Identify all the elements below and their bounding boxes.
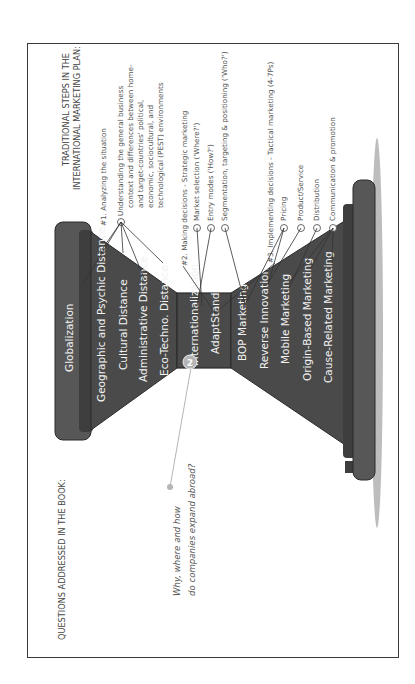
step1-line5: technological (PEST) environments (156, 82, 165, 208)
step3-item3: Distribution (312, 179, 321, 221)
steps-title-line2: INTERNATIONAL MARKETING PLAN: (72, 46, 82, 190)
label-internationalization: Internationalization (188, 264, 200, 366)
rotated-diagram: QUESTIONS ADDRESSED IN THE BOOK: TRADITI… (27, 43, 399, 658)
label-globalization: Globalization (63, 304, 75, 372)
step3-item4: Communication & promotion (328, 117, 337, 221)
questions-title: QUESTIONS ADDRESSED IN THE BOOK: (57, 479, 67, 640)
step1-line4: economic, sociocultural, and (146, 105, 155, 208)
label-adaptstand: AdaptStand (209, 293, 221, 354)
step3-title: #3. Implementing decisions - Tactical ma… (266, 62, 275, 263)
question-line1: Why, where and how (172, 505, 182, 596)
label-bop: BOP Marketing (236, 284, 248, 361)
step2-item1: Market selection ('Where?') (192, 123, 201, 221)
step1-title: #1. Analyzing the situation (99, 128, 108, 226)
question-line2: do companies expand abroad? (187, 463, 197, 596)
label-geographic: Geographic and Psychic Distance (95, 227, 107, 402)
label-origin-based: Origin-Based Marketing (301, 258, 313, 381)
label-ecotechno: Eco-Techno. Distance (158, 265, 170, 376)
lower-funnel (231, 213, 357, 453)
step1-line1: Understanding the general business (116, 85, 125, 216)
step3-markers (281, 225, 337, 232)
connector-dot (167, 484, 173, 490)
step1-line2: context and differences between home- (126, 64, 135, 208)
step2-title: #2. Making decisions - Strategic marketi… (180, 111, 189, 266)
step1-line3: and target-countries' political, (136, 100, 145, 208)
step3-item1: Pricing (279, 197, 288, 221)
steps-title-line1: TRADITIONAL STEPS IN THE (61, 53, 71, 167)
label-cause-related: Cause-Related Marketing (322, 251, 334, 383)
bottom-base (343, 180, 375, 480)
step3-item2: Product/Service (296, 164, 305, 221)
step2-item2: Entry modes ('How?') (206, 144, 215, 221)
step2-item3: Segmentation, targeting & positioning ('… (220, 51, 229, 221)
badge-2-label: 2 (187, 358, 193, 368)
label-cultural: Cultural Distance (117, 279, 129, 370)
